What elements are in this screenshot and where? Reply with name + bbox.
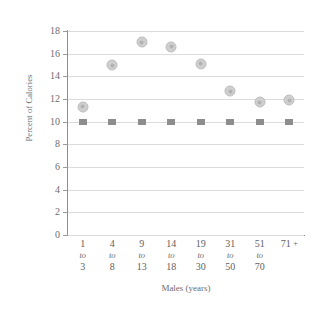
data-point-circle [77, 101, 88, 112]
data-point-circle [254, 97, 265, 108]
x-axis-tick-labels: 1to34to89to1314to1819to3031to5051to7071 … [68, 238, 304, 283]
y-axis-tick-label: 10 [30, 117, 60, 127]
x-axis-category-label: 71 + [269, 238, 309, 250]
gridline [68, 31, 304, 32]
y-axis-tick-label: 4 [30, 185, 60, 195]
data-point-circle [166, 41, 177, 52]
y-axis-tick [63, 144, 68, 145]
data-point-circle [284, 95, 295, 106]
data-point-circle [107, 60, 118, 71]
x-axis-title: Males (years) [68, 283, 304, 293]
y-axis-tick-label: 14 [30, 71, 60, 81]
y-axis-title: Percent of Calories [24, 38, 34, 178]
y-axis-tick-label: 0 [30, 230, 60, 240]
y-axis-tick-label: 12 [30, 94, 60, 104]
y-axis-tick-label: 8 [30, 139, 60, 149]
category-range-start: 71 + [269, 238, 309, 250]
category-range-connector: to [240, 250, 280, 262]
chart-figure: Percent of Calories 181614121086420 1to3… [0, 0, 315, 310]
data-point-square [226, 119, 234, 125]
gridline [68, 99, 304, 100]
y-axis-tick-label: 16 [30, 49, 60, 59]
y-axis-tick [63, 190, 68, 191]
gridline [68, 144, 304, 145]
gridline [68, 235, 304, 236]
y-axis-tick [63, 54, 68, 55]
gridline [68, 122, 304, 123]
data-point-circle [225, 86, 236, 97]
y-axis-tick [63, 122, 68, 123]
gridline [68, 212, 304, 213]
data-point-square [138, 119, 146, 125]
y-axis-tick [63, 76, 68, 77]
y-axis-tick [63, 212, 68, 213]
data-point-square [108, 119, 116, 125]
y-axis-tick [63, 31, 68, 32]
gridline [68, 167, 304, 168]
plot-area [68, 31, 304, 235]
y-axis-tick [63, 167, 68, 168]
data-point-square [79, 119, 87, 125]
y-axis-tick-label: 18 [30, 26, 60, 36]
data-point-square [285, 119, 293, 125]
y-axis-tick-label: 6 [30, 162, 60, 172]
gridline [68, 190, 304, 191]
y-axis-tick-label: 2 [30, 207, 60, 217]
gridline [68, 76, 304, 77]
data-point-square [197, 119, 205, 125]
gridline [68, 54, 304, 55]
data-point-square [256, 119, 264, 125]
data-point-square [167, 119, 175, 125]
y-axis-tick [63, 235, 68, 236]
y-axis-tick [63, 99, 68, 100]
data-point-circle [195, 58, 206, 69]
data-point-circle [136, 37, 147, 48]
category-range-end: 70 [240, 261, 280, 273]
